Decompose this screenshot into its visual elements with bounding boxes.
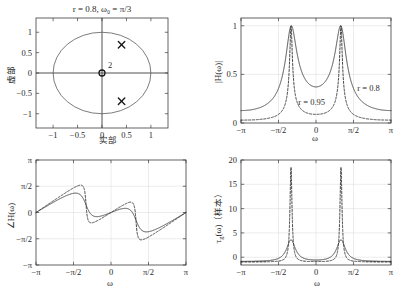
y-tick-label: 0.5: [226, 69, 237, 79]
panel-phase: −π−π/20π/2π−π−π/20π/2π ∠H(ω) ω: [0, 146, 205, 292]
x-tick-label: −π: [236, 125, 246, 135]
y-tick-label: 0: [28, 208, 32, 218]
tau-unit: （样本）: [213, 189, 223, 225]
x-tick-label: −π/2: [66, 267, 82, 277]
x-tick-label: −1: [49, 130, 58, 140]
y-tick-label: 0: [233, 118, 237, 128]
y-tick-label: −π: [23, 260, 33, 270]
y-tick-label: 20: [229, 155, 238, 165]
pole-zero-svg: r = 0.8, ω₀ = π/3 −1−0.500.51−1−0.500.51…: [0, 0, 205, 146]
pole-zero-xlabel: 实部: [99, 135, 117, 145]
x-tick-label: −π/2: [271, 267, 287, 277]
group-delay-xlabel: ω: [314, 278, 320, 288]
group-delay-ylabel-text: τg(ω)（样本）: [213, 189, 224, 244]
panel-pole-zero: r = 0.8, ω₀ = π/3 −1−0.500.51−1−0.500.51…: [0, 0, 205, 146]
x-tick-label: π/2: [143, 267, 154, 277]
tau-argument: (ω): [213, 225, 223, 237]
x-tick-label: π: [184, 267, 189, 277]
group-delay-body: −π−π/20π/2π05101520: [229, 155, 394, 277]
y-tick-label: 0: [28, 68, 32, 78]
group-delay-ylabel: τg(ω)（样本）: [213, 189, 224, 244]
y-tick-label: −π/2: [16, 234, 32, 244]
x-tick-label: 1: [149, 130, 153, 140]
zero-multiplicity-label: 2: [108, 60, 112, 70]
magnitude-ylabel: |H(ω)|: [213, 61, 223, 83]
y-tick-label: 1: [28, 27, 32, 37]
y-tick-label: 5: [233, 228, 237, 238]
x-tick-label: −0.5: [70, 130, 85, 140]
x-tick-label: π: [389, 267, 394, 277]
y-tick-label: 15: [229, 179, 238, 189]
curve-annotation: r = 0.8: [357, 83, 380, 93]
pole-zero-ylabel: 虚部: [6, 66, 16, 84]
x-tick-label: π/2: [348, 125, 359, 135]
x-tick-label: π/2: [348, 267, 359, 277]
x-tick-label: −π/2: [271, 125, 287, 135]
magnitude-xlabel: ω: [312, 133, 318, 143]
x-tick-label: 0: [314, 267, 318, 277]
curve-annotation: r = 0.95: [298, 97, 325, 107]
y-tick-label: 0.5: [21, 48, 32, 58]
y-tick-label: π/2: [21, 181, 32, 191]
y-tick-label: −0.5: [17, 88, 32, 98]
y-tick-label: 0: [233, 252, 237, 262]
figure-canvas: r = 0.8, ω₀ = π/3 −1−0.500.51−1−0.500.51…: [0, 0, 410, 292]
x-tick-label: −π: [236, 267, 246, 277]
panel-group-delay: −π−π/20π/2π05101520 τg(ω)（样本） ω: [205, 146, 410, 292]
phase-ylabel: ∠H(ω): [6, 203, 16, 229]
group-delay-svg: −π−π/20π/2π05101520 τg(ω)（样本） ω: [205, 146, 410, 292]
x-tick-label: 0.5: [121, 130, 132, 140]
y-tick-label: 1: [233, 21, 237, 31]
y-tick-label: π: [28, 155, 33, 165]
x-tick-label: π: [389, 125, 394, 135]
panel-magnitude: −π−π/20π/2π00.51r = 0.8r = 0.95 |H(ω)| ω: [205, 0, 410, 146]
phase-xlabel: ω: [107, 278, 113, 288]
pole-zero-body: −1−0.500.51−1−0.500.512: [17, 18, 168, 140]
magnitude-svg: −π−π/20π/2π00.51r = 0.8r = 0.95 |H(ω)| ω: [205, 0, 410, 146]
pole-zero-title: r = 0.8, ω₀ = π/3: [73, 4, 132, 14]
phase-svg: −π−π/20π/2π−π−π/20π/2π ∠H(ω) ω: [0, 146, 205, 292]
phase-body: −π−π/20π/2π−π−π/20π/2π: [16, 155, 189, 277]
y-tick-label: 10: [229, 204, 238, 214]
y-tick-label: −1: [23, 109, 32, 119]
magnitude-body: −π−π/20π/2π00.51r = 0.8r = 0.95: [226, 18, 393, 135]
x-tick-label: 0: [109, 267, 113, 277]
x-tick-label: −π: [31, 267, 41, 277]
